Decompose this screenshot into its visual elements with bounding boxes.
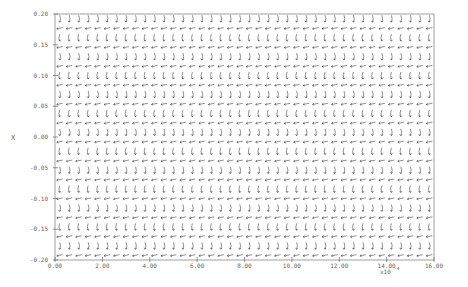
plot-frame xyxy=(55,14,434,260)
x-tick-label: 2.00 xyxy=(95,262,110,269)
quiver-plot: 0.200.150.100.050.00-0.05-0.10-0.15-0.20… xyxy=(0,0,468,287)
y-tick-label: -0.10 xyxy=(30,195,48,202)
y-tick-label: 0.10 xyxy=(34,72,49,79)
x-multiplier-exponent: -4 xyxy=(394,266,400,271)
x-tick-label: 8.00 xyxy=(237,262,252,269)
y-tick-label: 0.00 xyxy=(34,133,49,140)
y-axis: 0.200.150.100.050.00-0.05-0.10-0.15-0.20 xyxy=(30,10,58,263)
y-tick-label: 0.05 xyxy=(34,102,49,109)
y-tick-label: -0.05 xyxy=(30,164,48,171)
y-axis-label: X xyxy=(11,134,16,142)
x-tick-label: 12.00 xyxy=(330,262,348,269)
y-tick-label: -0.20 xyxy=(30,256,48,263)
y-tick-label: -0.15 xyxy=(30,225,48,232)
x-tick-label: 4.00 xyxy=(143,262,158,269)
y-tick-label: 0.15 xyxy=(34,41,49,48)
y-tick-label: 0.20 xyxy=(34,10,49,17)
x-tick-label: 10.00 xyxy=(283,262,301,269)
x-tick-label: 6.00 xyxy=(190,262,205,269)
vector-field xyxy=(57,15,433,256)
x-tick-label: 0.00 xyxy=(48,262,63,269)
x-multiplier-label: x10 xyxy=(380,268,391,275)
x-tick-label: 16.00 xyxy=(425,262,443,269)
